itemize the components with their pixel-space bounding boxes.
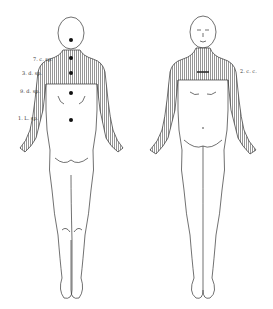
label-9-d-sp: 9. d. sp. [20, 88, 40, 94]
marker-dot [69, 91, 73, 95]
marker-dot [69, 56, 73, 60]
marker-dot [69, 38, 73, 42]
shaded-region-anterior [150, 48, 256, 154]
label-3-d-sp: 3. d. sp. [22, 70, 42, 76]
label-2-c-c: 2. c. c. [240, 68, 257, 74]
anterior-figure [150, 16, 256, 298]
marker-dot [69, 71, 73, 75]
navel [202, 127, 204, 129]
dermatome-figure [0, 0, 273, 309]
shaded-region-posterior [20, 50, 123, 152]
head [190, 16, 216, 48]
head [58, 17, 84, 49]
label-7-c-sp: 7. c. sp. [33, 56, 53, 62]
label-1-l-sp: 1. L. sp. [18, 115, 38, 121]
marker-dot [69, 118, 73, 122]
